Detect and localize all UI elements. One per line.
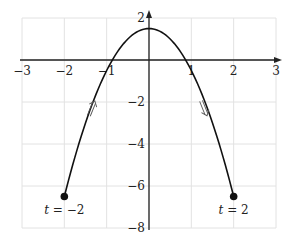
start-label: t = −2 [44, 203, 84, 217]
x-tick-label: 2 [230, 64, 238, 78]
x-tick-label: −3 [13, 64, 31, 78]
start-point [61, 193, 69, 201]
end-label: t = 2 [219, 203, 249, 217]
tick-labels: −3−2−11232−2−4−6−8 [13, 11, 280, 235]
y-axis-arrow-icon [146, 10, 152, 18]
y-tick-label: −8 [127, 221, 145, 235]
axes [20, 10, 282, 230]
y-tick-label: −6 [127, 179, 145, 193]
y-tick-label: 2 [137, 11, 145, 25]
y-tick-label: −4 [127, 137, 145, 151]
end-point [230, 193, 238, 201]
x-tick-label: −2 [55, 64, 73, 78]
y-tick-label: −2 [127, 95, 145, 109]
endpoints: t = −2t = 2 [44, 193, 249, 217]
x-axis-arrow-icon [274, 57, 282, 63]
x-tick-label: 3 [272, 64, 280, 78]
parametric-plot: −3−2−11232−2−4−6−8 t = −2t = 2 [0, 0, 293, 249]
